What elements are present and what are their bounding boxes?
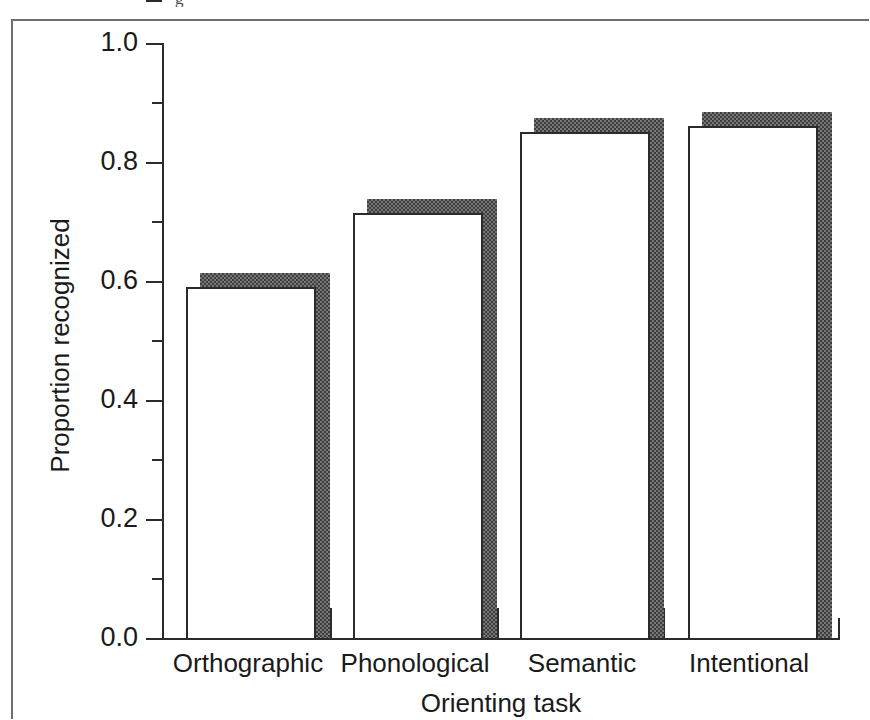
y-tick-0.8-dup <box>146 0 162 2</box>
y-tick-0.1 <box>152 578 162 580</box>
y-tick-label-0.0: 0.0 <box>60 622 138 653</box>
x-axis-label-intentional: Intentional <box>667 648 831 679</box>
bar-orthographic[interactable] <box>186 287 316 640</box>
bar-intentional[interactable] <box>688 126 818 640</box>
y-tick-0.8 <box>146 162 162 164</box>
figure-page: g 1.0 0.8 0.6 0.4 0.2 0.0 <box>0 0 870 720</box>
x-axis-label-semantic: Semantic <box>500 648 664 679</box>
x-tick-sep-1 <box>330 608 332 640</box>
x-axis-title: Orienting task <box>162 688 840 719</box>
y-tick-0.3 <box>152 459 162 461</box>
y-axis-spine <box>162 43 164 640</box>
y-tick-0.6 <box>146 281 162 283</box>
y-axis-title: Proportion recognized <box>45 136 76 556</box>
y-tick-0.2 <box>146 519 162 521</box>
y-tick-label-1.0: 1.0 <box>60 27 138 58</box>
y-tick-0.7 <box>152 221 162 223</box>
bar-chart-plot-area: 1.0 0.8 0.6 0.4 0.2 0.0 <box>0 0 870 720</box>
bar-phonological[interactable] <box>353 213 483 640</box>
x-axis-label-phonological: Phonological <box>333 648 497 679</box>
bar-semantic[interactable] <box>520 132 650 640</box>
y-tick-0.4 <box>146 400 162 402</box>
x-axis-label-orthographic: Orthographic <box>166 648 330 679</box>
y-tick-0.9 <box>152 102 162 104</box>
y-tick-0.5 <box>152 340 162 342</box>
y-tick-0.0 <box>146 638 162 640</box>
y-tick-1.0 <box>146 43 162 45</box>
x-tick-sep-2 <box>497 608 499 640</box>
x-tick-end-cap <box>838 618 840 640</box>
